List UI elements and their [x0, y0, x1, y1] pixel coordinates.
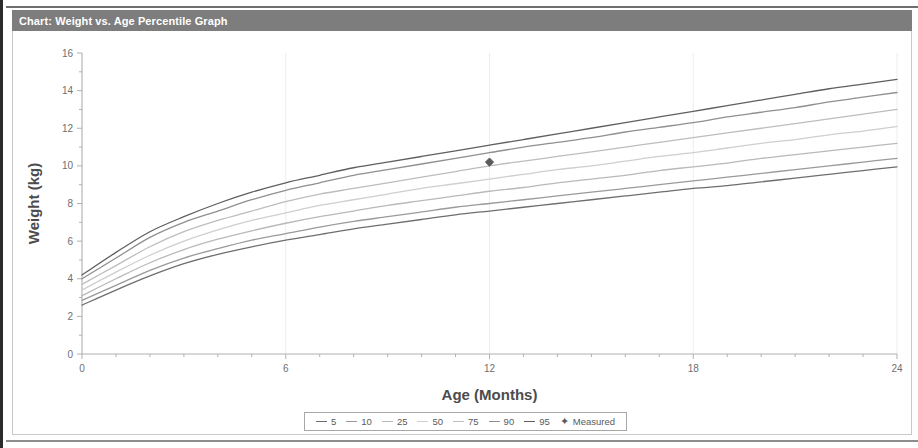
x-axis-title: Age (Months)	[442, 386, 538, 403]
legend-item-label: 50	[432, 416, 443, 427]
page-frame: Chart: Weight vs. Age Percentile Graph 0…	[0, 0, 918, 448]
legend-line-swatch	[489, 421, 500, 422]
y-tick-label: 16	[62, 48, 74, 59]
legend-line-swatch	[346, 421, 357, 422]
y-tick-label: 8	[67, 198, 73, 209]
x-tick-label: 18	[688, 363, 700, 374]
x-tick-label: 0	[79, 363, 85, 374]
legend-item-label: 10	[361, 416, 372, 427]
legend-item-90[interactable]: 90	[489, 416, 515, 427]
y-tick-label: 2	[67, 311, 73, 322]
top-divider	[6, 6, 918, 8]
legend-item-75[interactable]: 75	[453, 416, 479, 427]
chart-panel: 024681012141606121824Age (Months)Weight …	[12, 31, 912, 435]
y-tick-label: 0	[67, 349, 73, 360]
legend-line-swatch	[453, 421, 464, 422]
legend-line-swatch	[524, 421, 535, 422]
legend-item-label: Measured	[573, 416, 615, 427]
plot-area: 024681012141606121824Age (Months)Weight …	[13, 31, 913, 435]
y-tick-label: 12	[62, 123, 74, 134]
x-tick-label: 24	[891, 363, 903, 374]
legend-item-label: 90	[504, 416, 515, 427]
legend-item-5[interactable]: 5	[316, 416, 336, 427]
x-tick-label: 6	[283, 363, 289, 374]
y-tick-label: 4	[67, 273, 73, 284]
chart-titlebar: Chart: Weight vs. Age Percentile Graph	[12, 10, 912, 31]
legend-item-95[interactable]: 95	[524, 416, 550, 427]
y-tick-label: 6	[67, 236, 73, 247]
y-axis: 0246810121416	[62, 48, 82, 360]
y-tick-label: 10	[62, 160, 74, 171]
legend-line-swatch	[417, 421, 428, 422]
page-title: Chart: Weight vs. Age Percentile Graph	[12, 15, 228, 27]
legend-measured-marker-icon: ✦	[560, 417, 569, 426]
y-axis-title: Weight (kg)	[25, 163, 42, 244]
legend-item-label: 75	[468, 416, 479, 427]
chart-legend: 5102550759095✦Measured	[304, 412, 627, 431]
legend-item-25[interactable]: 25	[382, 416, 408, 427]
bottom-divider	[6, 440, 918, 442]
legend-item-label: 5	[331, 416, 336, 427]
legend-item-label: 25	[397, 416, 408, 427]
legend-item-label: 95	[539, 416, 550, 427]
legend-line-swatch	[382, 421, 393, 422]
x-tick-label: 12	[484, 363, 496, 374]
legend-item-10[interactable]: 10	[346, 416, 372, 427]
y-tick-label: 14	[62, 85, 74, 96]
legend-line-swatch	[316, 421, 327, 422]
x-axis: 06121824	[79, 354, 903, 374]
legend-item-measured[interactable]: ✦Measured	[560, 416, 615, 427]
legend-item-50[interactable]: 50	[417, 416, 443, 427]
weight-vs-age-percentile-chart: 024681012141606121824Age (Months)Weight …	[13, 31, 913, 435]
